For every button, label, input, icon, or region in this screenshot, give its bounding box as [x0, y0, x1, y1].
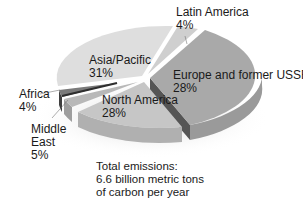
label-value: 28%	[173, 82, 303, 95]
label-value: 31%	[89, 67, 151, 80]
label-value: 28%	[102, 107, 178, 120]
label-latin-america: Latin America 4%	[176, 6, 249, 32]
note-line-1: Total emissions:	[96, 160, 204, 173]
label-north-america: North America 28%	[102, 94, 178, 120]
label-value: 4%	[176, 19, 249, 32]
label-value: 5%	[31, 149, 66, 162]
note-line-2: 6.6 billion metric tons	[96, 173, 204, 186]
note-line-3: of carbon per year	[96, 186, 204, 199]
label-africa: Africa 4%	[19, 88, 50, 114]
label-europe: Europe and former USSR 28%	[173, 69, 303, 95]
label-asia-pacific: Asia/Pacific 31%	[89, 54, 151, 80]
total-emissions-note: Total emissions: 6.6 billion metric tons…	[96, 160, 204, 199]
label-value: 4%	[19, 101, 50, 114]
label-middle-east: Middle East 5%	[31, 123, 66, 162]
